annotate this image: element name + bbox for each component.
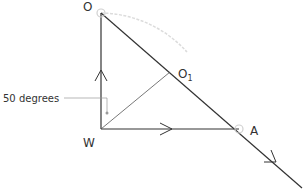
- line-wo1: [101, 72, 170, 129]
- angle-marker-dot: [106, 112, 109, 115]
- vector-diagram: O W A O1 50 degrees: [0, 0, 304, 190]
- rotation-arc: [101, 13, 187, 52]
- angle-annotation: 50 degrees: [3, 93, 59, 104]
- label-a: A: [250, 124, 259, 138]
- label-o1: O1: [178, 67, 193, 83]
- label-w: W: [83, 136, 95, 150]
- label-o: O: [83, 0, 92, 14]
